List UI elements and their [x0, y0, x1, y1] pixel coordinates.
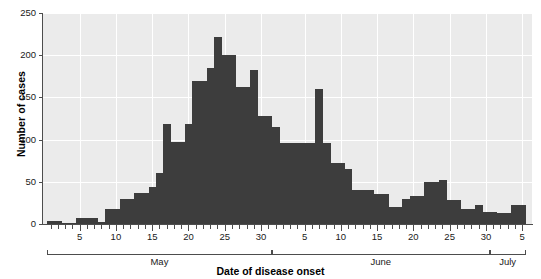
- x-tick-day-52: [421, 225, 422, 229]
- y-tick-label-100: 100: [2, 134, 36, 145]
- x-tick-label: 25: [213, 231, 237, 242]
- y-tick-label-250: 250: [2, 7, 36, 18]
- x-tick-day-55: [442, 225, 443, 229]
- x-tick-label: 15: [140, 231, 164, 242]
- x-tick-label: 25: [438, 231, 462, 242]
- x-tick-day-26: [232, 225, 233, 229]
- x-tick-day-28: [247, 225, 248, 229]
- x-tick-label: 5: [510, 231, 534, 242]
- x-tick-day-8: [101, 225, 102, 229]
- x-tick-day-63: [500, 225, 501, 229]
- x-tick-day-17: [167, 225, 168, 229]
- x-tick-day-27: [239, 225, 240, 229]
- x-tick-day-16: [159, 225, 160, 229]
- x-tick-day-58: [464, 225, 465, 229]
- x-tick-day-53: [428, 225, 429, 229]
- x-tick-day-21: [196, 225, 197, 229]
- x-tick-day-19: [181, 225, 182, 229]
- x-tick-day-3: [65, 225, 66, 229]
- bar: [519, 205, 527, 224]
- x-tick-day-65: [515, 225, 516, 229]
- x-tick-day-11: [123, 225, 124, 229]
- x-tick-day-37: [312, 225, 313, 229]
- x-tick-day-40: [334, 225, 335, 229]
- x-tick-day-62: [493, 225, 494, 229]
- y-tick-50: [39, 182, 42, 183]
- x-tick-day-59: [471, 225, 472, 229]
- x-tick-day-45: [370, 225, 371, 229]
- x-tick-day-33: [283, 225, 284, 229]
- x-tick-label: 20: [176, 231, 200, 242]
- x-tick-day-64: [508, 225, 509, 229]
- x-tick-label: 30: [474, 231, 498, 242]
- x-tick-day-39: [326, 225, 327, 229]
- x-tick-day-42: [348, 225, 349, 229]
- x-tick-day-48: [392, 225, 393, 229]
- x-tick-label: 30: [249, 231, 273, 242]
- x-tick-day-6: [87, 225, 88, 229]
- month-bracket-june: [272, 250, 490, 255]
- x-tick-day-12: [130, 225, 131, 229]
- x-tick-day-44: [363, 225, 364, 229]
- y-tick-250: [39, 13, 42, 14]
- x-tick-day-4: [72, 225, 73, 229]
- x-tick-day-18: [174, 225, 175, 229]
- x-tick-label: 10: [104, 231, 128, 242]
- y-tick-label-150: 150: [2, 91, 36, 102]
- y-tick-label-200: 200: [2, 49, 36, 60]
- x-tick-day-50: [406, 225, 407, 229]
- x-tick-label: 10: [329, 231, 353, 242]
- x-tick-day-38: [319, 225, 320, 229]
- x-tick-day-22: [203, 225, 204, 229]
- x-tick-day-13: [138, 225, 139, 229]
- x-tick-label: 5: [293, 231, 317, 242]
- y-tick-100: [39, 140, 42, 141]
- x-tick-day-24: [217, 225, 218, 229]
- x-tick-day-32: [276, 225, 277, 229]
- x-tick-day-34: [290, 225, 291, 229]
- x-tick-day-47: [384, 225, 385, 229]
- x-tick-day-54: [435, 225, 436, 229]
- x-tick-label: 20: [401, 231, 425, 242]
- x-tick-day-1: [51, 225, 52, 229]
- x-tick-day-49: [399, 225, 400, 229]
- x-tick-day-60: [479, 225, 480, 229]
- y-tick-label-50: 50: [2, 176, 36, 187]
- y-tick-200: [39, 55, 42, 56]
- y-axis-title: Number of cases: [15, 49, 27, 179]
- x-tick-day-23: [210, 225, 211, 229]
- x-tick-day-57: [457, 225, 458, 229]
- x-tick-day-7: [94, 225, 95, 229]
- y-tick-150: [39, 97, 42, 98]
- plot-area: [43, 13, 532, 224]
- x-tick-label: 5: [68, 231, 92, 242]
- x-tick-day-31: [268, 225, 269, 229]
- x-tick-day-29: [254, 225, 255, 229]
- y-tick-label-0: 0: [2, 218, 36, 229]
- x-axis-title: Date of disease onset: [0, 265, 541, 277]
- x-tick-day-35: [297, 225, 298, 229]
- month-bracket-may: [47, 250, 272, 255]
- x-tick-day-14: [145, 225, 146, 229]
- x-tick-label: 15: [365, 231, 389, 242]
- month-bracket-july: [490, 250, 526, 255]
- x-tick-day-2: [58, 225, 59, 229]
- bar-series: [43, 13, 532, 224]
- epidemic-curve-figure: Number of cases 050100150200250 51015202…: [0, 0, 541, 279]
- x-tick-day-43: [355, 225, 356, 229]
- x-tick-day-9: [109, 225, 110, 229]
